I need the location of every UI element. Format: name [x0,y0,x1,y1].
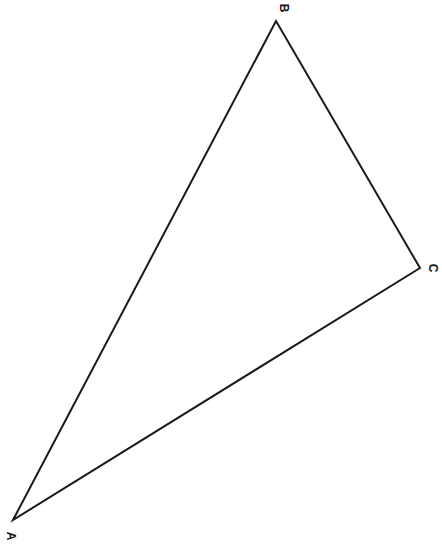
triangle-svg: A B C [0,0,442,554]
triangle-diagram: A B C [0,0,442,554]
triangle-abc [13,21,420,520]
vertex-label-a: A [4,532,18,541]
vertex-label-c: C [426,264,440,273]
vertex-label-b: B [277,4,291,13]
